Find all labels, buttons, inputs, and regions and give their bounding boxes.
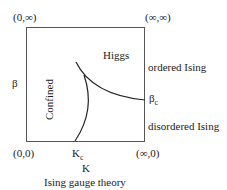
corner-bottom-right: (∞,0): [136, 148, 159, 159]
x-axis-label: K: [82, 163, 90, 174]
confined-region-label: Confined: [44, 79, 55, 120]
k-critical-label: Kc: [72, 148, 84, 162]
beta-critical-label: βc: [149, 93, 158, 107]
ordered-ising-label: ordered Ising: [148, 62, 206, 73]
phase-diagram-lines: [0, 0, 227, 190]
y-axis-label: β: [12, 78, 18, 89]
corner-top-left: (0,∞): [13, 12, 36, 23]
confinement-boundary-curve: [75, 75, 88, 141]
disordered-ising-label: disordered Ising: [148, 121, 219, 132]
corner-bottom-left: (0,0): [13, 148, 34, 159]
corner-top-right: (∞,∞): [145, 12, 171, 23]
diagram-caption: Ising gauge theory: [44, 177, 126, 188]
higgs-region-label: Higgs: [103, 50, 129, 61]
